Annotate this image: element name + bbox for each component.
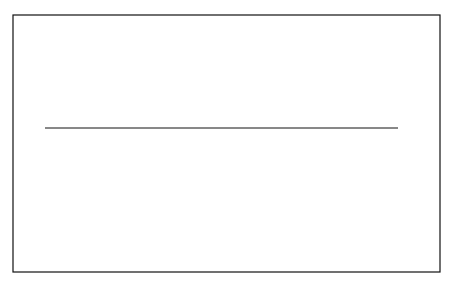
figure-frame — [13, 15, 440, 272]
diagram-canvas — [0, 0, 452, 284]
